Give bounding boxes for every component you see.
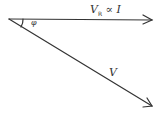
v-vector: [9, 19, 152, 106]
phasor-diagram: VR ∝ I V φ: [0, 0, 163, 114]
vr-label: VR ∝ I: [90, 3, 121, 17]
phasor-svg: [0, 0, 163, 114]
phi-label: φ: [31, 18, 37, 27]
angle-arc-icon: [21, 19, 23, 27]
v-arrowhead-icon: [143, 98, 152, 107]
v-label: V: [109, 66, 117, 79]
